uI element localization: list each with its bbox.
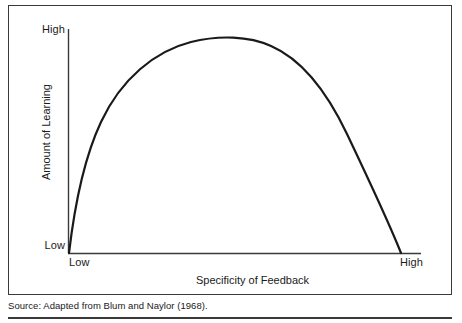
y-axis-title: Amount of Learning [40, 57, 52, 207]
chart-canvas [9, 6, 453, 296]
x-axis-high-label: High [400, 256, 423, 268]
y-axis-high-label: High [31, 23, 65, 35]
plot-area: High Low Low High Amount of Learning Spe… [9, 6, 453, 296]
x-axis-title: Specificity of Feedback [76, 274, 429, 286]
learning-curve [69, 37, 401, 253]
source-note: Source: Adapted from Blum and Naylor (19… [8, 300, 208, 311]
figure-frame: High Low Low High Amount of Learning Spe… [8, 5, 452, 295]
y-axis-low-label: Low [31, 239, 65, 251]
bottom-rule [8, 317, 452, 319]
x-axis-low-label: Low [69, 256, 89, 268]
